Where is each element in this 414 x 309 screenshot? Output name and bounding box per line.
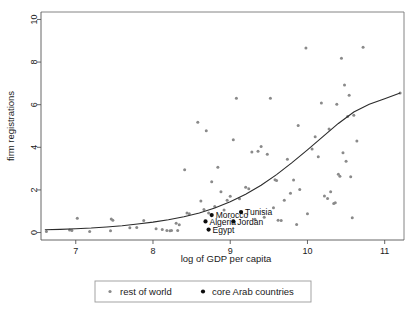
data-point-rest-of-world (229, 195, 232, 198)
data-point-rest-of-world (343, 84, 346, 87)
data-point-rest-of-world (349, 175, 352, 178)
data-point-rest-of-world (109, 229, 112, 232)
data-point-rest-of-world (335, 103, 338, 106)
country-label-jordan: Jordan (237, 217, 263, 227)
data-point-rest-of-world (306, 212, 309, 215)
chart-figure: 0246810 7891011 log of GDP per capita fi… (0, 0, 414, 309)
data-point-rest-of-world (250, 151, 253, 154)
data-point-rest-of-world (269, 97, 272, 100)
data-point-rest-of-world (351, 216, 354, 219)
data-point-rest-of-world (362, 46, 365, 49)
x-axis-title: log of GDP per capita (181, 253, 272, 264)
data-point-rest-of-world (311, 148, 314, 151)
x-tick-label-8: 8 (150, 246, 155, 256)
data-point-rest-of-world (142, 219, 145, 222)
data-point-rest-of-world (155, 227, 158, 230)
data-point-rest-of-world (165, 229, 168, 232)
chart-legend: rest of world core Arab countries (95, 281, 311, 302)
y-tick-label-4: 4 (29, 145, 39, 150)
data-point-rest-of-world (111, 219, 114, 222)
data-point-rest-of-world (289, 192, 292, 195)
data-point-rest-of-world (247, 187, 250, 190)
data-point-rest-of-world (341, 151, 344, 154)
data-point-rest-of-world (298, 188, 301, 191)
data-point-rest-of-world (257, 150, 260, 153)
country-label-tunisia: Tunisia (245, 207, 272, 217)
data-point-rest-of-world (275, 179, 278, 182)
country-label-egypt: Egypt (213, 225, 235, 235)
data-point-rest-of-world (232, 138, 235, 141)
y-tick-label-2: 2 (29, 187, 39, 192)
data-point-rest-of-world (340, 57, 343, 60)
country-labels: AlgeriaEgyptMoroccoJordanTunisia (210, 207, 273, 234)
data-point-rest-of-world (226, 199, 229, 202)
data-point-rest-of-world (175, 222, 178, 225)
data-point-rest-of-world (199, 200, 202, 203)
data-point-rest-of-world (272, 206, 275, 209)
y-tick-label-10: 10 (29, 14, 39, 24)
data-point-rest-of-world (128, 226, 131, 229)
x-tick-label-10: 10 (302, 246, 312, 256)
legend-marker-rest-of-world (108, 290, 111, 293)
data-point-rest-of-world (210, 180, 213, 183)
data-point-rest-of-world (292, 179, 295, 182)
data-point-rest-of-world (326, 197, 329, 200)
data-point-rest-of-world (266, 153, 269, 156)
data-point-rest-of-world (334, 201, 337, 204)
data-point-rest-of-world (219, 190, 222, 193)
data-point-rest-of-world (205, 129, 208, 132)
data-point-rest-of-world (161, 228, 164, 231)
data-point-rest-of-world (295, 223, 298, 226)
data-point-rest-of-world (88, 230, 91, 233)
y-tick-label-6: 6 (29, 102, 39, 107)
data-point-rest-of-world (135, 226, 138, 229)
data-point-rest-of-world (304, 47, 307, 50)
data-point-rest-of-world (338, 175, 341, 178)
data-point-rest-of-world (297, 124, 300, 127)
data-point-rest-of-world (45, 230, 48, 233)
data-point-rest-of-world (352, 114, 355, 117)
y-axis-title: firm registrations (5, 91, 16, 161)
y-tick-label-0: 0 (29, 230, 39, 235)
data-point-rest-of-world (244, 186, 247, 189)
data-point-rest-of-world (320, 101, 323, 104)
data-point-rest-of-world (260, 145, 263, 148)
data-point-rest-of-world (216, 166, 219, 169)
data-point-rest-of-world (207, 211, 210, 214)
data-point-rest-of-world (178, 223, 181, 226)
data-point-rest-of-world (170, 229, 173, 232)
legend-label-rest-of-world: rest of world (120, 286, 172, 297)
data-point-rest-of-world (277, 219, 280, 222)
data-point-rest-of-world (183, 168, 186, 171)
data-point-rest-of-world (317, 155, 320, 158)
data-point-rest-of-world (348, 94, 351, 97)
data-point-rest-of-world (283, 199, 286, 202)
data-point-egypt (207, 227, 211, 231)
data-point-rest-of-world (323, 194, 326, 197)
data-point-rest-of-world (280, 219, 283, 222)
data-point-rest-of-world (355, 139, 358, 142)
legend-label-core-arab-countries: core Arab countries (212, 286, 294, 297)
data-point-rest-of-world (235, 97, 238, 100)
data-point-rest-of-world (345, 160, 348, 163)
data-point-rest-of-world (196, 121, 199, 124)
data-point-rest-of-world (176, 229, 179, 232)
plot-frame (41, 12, 404, 240)
x-tick-label-11: 11 (380, 246, 389, 256)
x-tick-label-7: 7 (73, 246, 78, 256)
data-point-algeria (203, 219, 207, 223)
data-point-rest-of-world (329, 190, 332, 193)
data-point-rest-of-world (76, 217, 79, 220)
data-point-rest-of-world (286, 158, 289, 161)
y-tick-label-8: 8 (29, 60, 39, 65)
scatter-plot-svg: 0246810 7891011 log of GDP per capita fi… (0, 0, 414, 309)
legend-marker-core-arab-countries (201, 289, 205, 293)
data-point-rest-of-world (314, 135, 317, 138)
y-axis-ticks: 0246810 (29, 14, 41, 235)
